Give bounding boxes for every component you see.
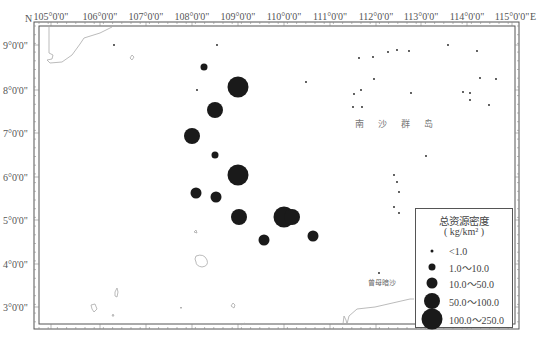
legend-unit: ( kg/km² ) (416, 226, 512, 237)
longitude-label: 111°0'0" (313, 11, 347, 22)
legend-item: 100.0～250.0 (416, 209, 512, 223)
station-marker (479, 77, 481, 79)
station-marker (259, 235, 270, 246)
station-marker (393, 206, 395, 208)
station-marker (361, 106, 363, 108)
station-marker (396, 181, 398, 183)
place-label-zengmu-reef: 曾母暗沙 (368, 277, 396, 287)
latitude-label: 6°0'0" (3, 172, 28, 183)
longitude-label: 108°0'0" (175, 11, 210, 22)
legend-label: <1.0 (449, 246, 467, 257)
station-marker (469, 92, 471, 94)
station-marker (387, 51, 389, 53)
station-marker (398, 212, 400, 214)
latitude-label: 7°0'0" (3, 128, 28, 139)
station-marker (352, 106, 354, 108)
station-marker (398, 191, 400, 193)
station-marker (308, 231, 319, 242)
station-marker (360, 89, 362, 91)
longitude-label: 114°0'0" (450, 11, 485, 22)
station-marker (228, 165, 249, 186)
legend-label: 100.0～250.0 (449, 312, 504, 327)
latitude-label: 3°0'0" (3, 302, 28, 313)
station-marker (201, 64, 208, 71)
legend-symbol-icon (429, 264, 436, 271)
longitude-label: 115°0'0" (495, 11, 530, 22)
station-marker (113, 44, 115, 46)
legend-label: 50.0～100.0 (449, 294, 499, 309)
place-label-nansha-islands: 南沙群岛 (355, 117, 447, 130)
north-label: N (25, 13, 32, 24)
station-marker (396, 49, 398, 51)
longitude-label: 110°0'0" (267, 11, 302, 22)
longitude-label: 112°0'0" (359, 11, 394, 22)
station-marker (410, 92, 412, 94)
longitude-label: 109°0'0" (221, 11, 256, 22)
station-marker (462, 91, 464, 93)
station-marker (469, 99, 471, 101)
station-marker (495, 78, 497, 80)
station-marker (212, 152, 219, 159)
legend-symbol-icon (422, 309, 443, 330)
station-marker (372, 56, 374, 58)
longitude-label: 107°0'0" (129, 11, 164, 22)
legend-label: 1.0～10.0 (449, 260, 489, 275)
latitude-label: 8°0'0" (3, 85, 28, 96)
station-marker (231, 209, 247, 225)
station-marker (476, 50, 478, 52)
station-marker (305, 81, 307, 83)
station-marker (191, 188, 202, 199)
station-marker (216, 44, 218, 46)
station-marker (378, 272, 380, 274)
station-marker (228, 77, 249, 98)
legend-symbol-icon (424, 293, 440, 309)
legend: 总资源密度 ( kg/km² ) <1.01.0～10.010.0～50.050… (415, 208, 513, 328)
station-marker (488, 104, 490, 106)
latitude-label: 5°0'0" (3, 215, 28, 226)
station-marker (207, 102, 223, 118)
station-marker (408, 50, 410, 52)
longitude-label: 106°0'0" (83, 11, 118, 22)
station-marker (393, 174, 395, 176)
station-marker (196, 89, 198, 91)
station-marker (447, 44, 449, 46)
legend-label: 10.0～50.0 (449, 276, 494, 291)
east-label: E (530, 11, 536, 22)
legend-symbol-icon (427, 278, 438, 289)
station-marker (184, 128, 200, 144)
station-marker (211, 192, 222, 203)
station-marker (425, 155, 427, 157)
station-marker (353, 93, 355, 95)
latitude-label: 4°0'0" (3, 259, 28, 270)
station-marker (284, 209, 300, 225)
station-marker (373, 78, 375, 80)
longitude-label: 113°0'0" (404, 11, 439, 22)
latitude-label: 9°0'0" (3, 40, 28, 51)
legend-symbol-icon (431, 250, 434, 253)
longitude-label: 105°0'0" (34, 11, 69, 22)
station-marker (358, 57, 360, 59)
